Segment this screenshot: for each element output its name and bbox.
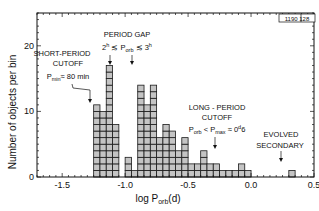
histogram-bars — [94, 65, 295, 177]
histogram-bin — [176, 151, 182, 177]
histogram-bin — [113, 125, 119, 177]
svg-text:SECONDARY: SECONDARY — [256, 141, 303, 150]
y-tick-label: 10 — [24, 106, 34, 116]
histogram-bin — [238, 164, 244, 177]
histogram-bin — [125, 157, 131, 177]
histogram-bin — [245, 170, 251, 177]
histogram-bin — [194, 164, 200, 177]
x-tick-label: 0.0 — [245, 180, 258, 190]
svg-text:Porb < Pmax ≈ 0d6: Porb < Pmax ≈ 0d6 — [189, 124, 246, 135]
histogram-bin — [188, 164, 194, 177]
y-tick-label: 20 — [24, 41, 34, 51]
histogram-bin — [144, 105, 150, 177]
histogram-bin — [232, 170, 238, 177]
histogram-bin — [220, 170, 226, 177]
x-axis-label: log Porb(d) — [135, 193, 180, 205]
histogram-bin — [182, 138, 188, 177]
svg-text:SHORT-PERIOD: SHORT-PERIOD — [34, 49, 92, 58]
x-tick-label: 0.5 — [308, 180, 319, 190]
histogram-bin — [226, 170, 232, 177]
x-tick-label: -0.5 — [180, 180, 196, 190]
histogram-bin — [289, 170, 295, 177]
histogram-bin — [157, 138, 163, 177]
histogram-bin — [207, 164, 213, 177]
histogram-bin — [131, 170, 137, 177]
x-tick-label: -1.5 — [54, 180, 70, 190]
arrow-short-period — [72, 84, 90, 100]
histogram-bin — [169, 131, 175, 177]
histogram-bin — [138, 85, 144, 177]
y-tick-label: 0 — [29, 172, 34, 182]
histogram-bin — [201, 151, 207, 177]
figure-id-box: 1190 128 — [279, 14, 315, 22]
histogram-bin — [150, 85, 156, 177]
svg-text:LONG - PERIOD: LONG - PERIOD — [189, 103, 246, 112]
annotation-evolved-secondary: EVOLVED SECONDARY — [256, 130, 303, 162]
annotation-short-period-cutoff: SHORT-PERIOD CUTOFF Pmin≈ 80 min — [34, 49, 92, 103]
x-tick-label: -1.0 — [117, 180, 133, 190]
histogram-bin — [100, 111, 106, 177]
svg-text:1190 128: 1190 128 — [285, 16, 310, 22]
histogram-chart: -1.5-1.0-0.50.00.501020 Number of object… — [0, 0, 319, 211]
annotation-period-gap: PERIOD GAP 2h ≲ Porb ≲ 3h — [102, 30, 152, 65]
y-axis-label: Number of objects per bin — [7, 55, 18, 170]
svg-text:Pmin≈ 80 min: Pmin≈ 80 min — [47, 72, 90, 82]
svg-text:CUTOFF: CUTOFF — [53, 59, 84, 68]
svg-text:CUTOFF: CUTOFF — [202, 113, 233, 122]
histogram-bin — [94, 105, 100, 177]
histogram-bin — [213, 164, 219, 177]
histogram-bin — [163, 125, 169, 177]
svg-text:2h ≲ Porb ≲ 3h: 2h ≲ Porb ≲ 3h — [102, 42, 152, 53]
svg-text:PERIOD GAP: PERIOD GAP — [104, 30, 151, 39]
svg-text:EVOLVED: EVOLVED — [264, 130, 299, 139]
histogram-bin — [106, 65, 112, 177]
annotation-long-period-cutoff: LONG - PERIOD CUTOFF Porb < Pmax ≈ 0d6 — [189, 103, 246, 149]
